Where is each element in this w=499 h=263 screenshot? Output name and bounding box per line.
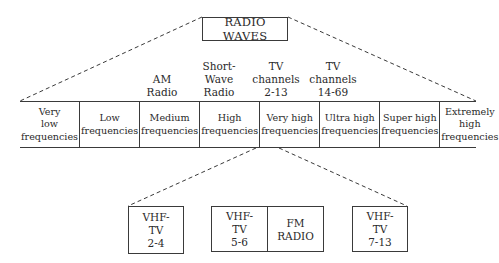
band-very-high: Very high frequencies xyxy=(259,102,319,147)
band-extremely-high: Extremely high frequencies xyxy=(439,102,499,147)
tv-channels-14-69-label: TV channels 14-69 xyxy=(298,59,368,99)
band-ultra-high: Ultra high frequencies xyxy=(319,102,379,147)
frequency-bands-table: Very low frequencies Low frequencies Med… xyxy=(20,101,476,148)
vhf-tv-5-6-cell: VHF- TV 5-6 xyxy=(212,207,267,251)
radio-waves-title-box: RADIO WAVES xyxy=(202,17,288,41)
band-medium: Medium frequencies xyxy=(139,102,199,147)
band-low: Low frequencies xyxy=(79,102,139,147)
vhf-tv-7-13-box: VHF- TV 7-13 xyxy=(352,206,408,252)
band-super-high: Super high frequencies xyxy=(379,102,439,147)
dashed-line-right-bottom xyxy=(279,148,407,206)
radio-waves-title: RADIO WAVES xyxy=(203,15,287,43)
fm-radio-cell: FM RADIO xyxy=(267,207,323,251)
band-very-low: Very low frequencies xyxy=(20,102,79,147)
dashed-line-left-bottom xyxy=(128,148,256,206)
vhf-tv-2-4-box: VHF- TV 2-4 xyxy=(128,206,184,254)
band-high: High frequencies xyxy=(199,102,259,147)
vhf-tv-5-6-fm-radio-box: VHF- TV 5-6 FM RADIO xyxy=(211,206,324,252)
